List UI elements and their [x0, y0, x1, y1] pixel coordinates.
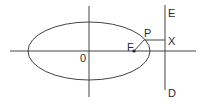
- focal-segment-fp: [134, 40, 144, 51]
- label-focus: F: [127, 41, 134, 53]
- label-origin: 0: [80, 52, 86, 64]
- label-directrix-bottom: D: [168, 87, 176, 99]
- label-directrix-top: E: [168, 7, 175, 19]
- label-foot: X: [168, 35, 176, 47]
- ellipse-diagram: 0 F P X E D: [0, 0, 202, 106]
- label-point: P: [144, 27, 151, 39]
